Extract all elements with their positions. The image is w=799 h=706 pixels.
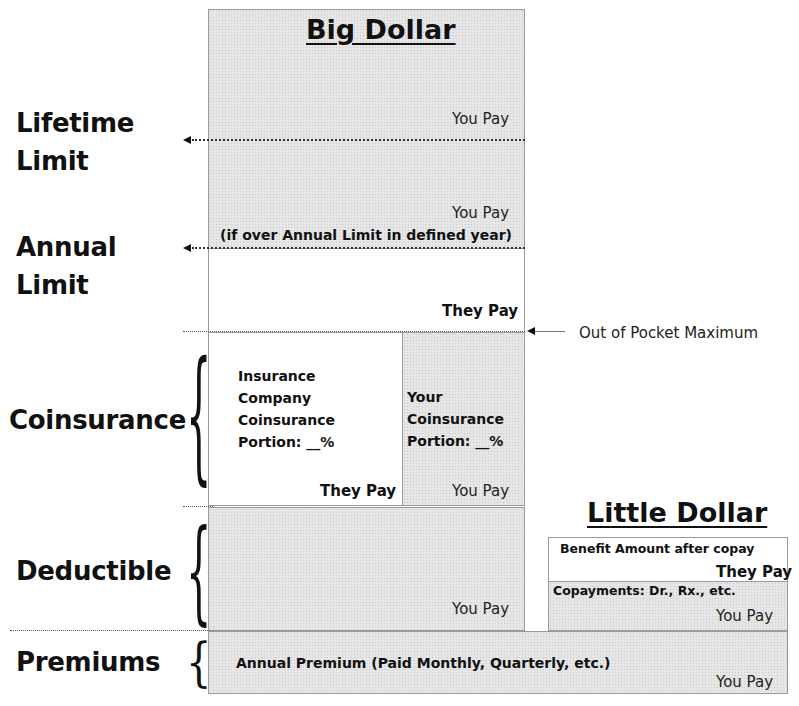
coinsurance-company-line: Portion: __% [238,431,335,453]
out-of-pocket-arrow-icon [527,327,535,335]
coinsurance-yours-line: Your [407,386,504,408]
lifetime-arrow-icon [183,136,191,144]
deductible-brace-icon: { [186,515,211,627]
coinsurance-company-text: Insurance Company Coinsurance Portion: _… [238,365,335,453]
annual-they-pay: They Pay [442,302,518,320]
coinsurance-company-line: Insurance [238,365,335,387]
annual-arrow-icon [183,244,191,252]
label-annual-line: Annual [16,228,116,266]
deductible-bottom-line [10,630,210,631]
coinsurance-company-line: Company [238,387,335,409]
coinsurance-they-pay: They Pay [320,482,396,500]
benefit-they-pay: They Pay [716,563,792,581]
out-of-pocket-label: Out of Pocket Maximum [579,324,758,342]
big-dollar-title: Big Dollar [306,14,456,45]
coinsurance-brace-icon: { [186,342,211,486]
coinsurance-company-line: Coinsurance [238,409,335,431]
annual-limit-note: (if over Annual Limit in defined year) [220,224,512,246]
label-annual-line: Limit [16,266,116,304]
premiums-you-pay: You Pay [716,673,773,691]
label-lifetime-line: Limit [16,142,134,180]
label-lifetime-limit: Lifetime Limit [16,104,134,180]
coinsurance-yours-text: Your Coinsurance Portion: __% [407,386,504,452]
premiums-label: Annual Premium (Paid Monthly, Quarterly,… [236,652,611,674]
lifetime-limit-line [192,139,525,141]
label-coinsurance: Coinsurance [9,401,186,439]
little-dollar-title: Little Dollar [587,497,767,528]
copay-you-pay: You Pay [716,607,773,625]
label-deductible: Deductible [16,552,171,590]
premiums-brace-icon: { [186,636,211,688]
coinsurance-yours-line: Coinsurance [407,408,504,430]
copay-label: Copayments: Dr., Rx., etc. [553,583,736,598]
annual-you-pay: You Pay [452,204,509,222]
coinsurance-yours-line: Portion: __% [407,430,504,452]
coinsurance-you-pay: You Pay [452,482,509,500]
lifetime-you-pay: You Pay [452,110,509,128]
benefit-label: Benefit Amount after copay [560,541,754,556]
label-annual-limit: Annual Limit [16,228,116,304]
label-premiums: Premiums [16,643,160,681]
out-of-pocket-leader [535,331,565,332]
deductible-you-pay: You Pay [452,600,509,618]
label-lifetime-line: Lifetime [16,104,134,142]
